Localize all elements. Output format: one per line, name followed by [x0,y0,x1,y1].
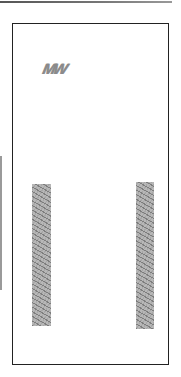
top-border-line [0,1,172,3]
left-margin-line [0,156,2,290]
hatched-bar-right [136,182,154,329]
hatched-bar-left [32,184,51,326]
handwritten-annotation: MW [41,60,75,78]
